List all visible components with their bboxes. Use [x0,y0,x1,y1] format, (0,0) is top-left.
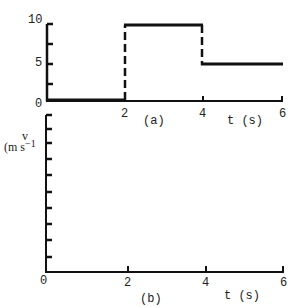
plot-a-x-label-4: 4 [199,107,206,121]
plot-b-y-title-unit-base: (m s [4,140,25,154]
plot-b: v (m s−1 0 2 4 6 (b) t (s) [4,115,287,306]
plot-b-x-title: t (s) [224,289,260,303]
plot-a-x-label-2: 2 [121,107,128,121]
plot-b-x-label-4: 4 [202,276,209,290]
plot-a-y-label-10: 10 [28,13,42,27]
plot-a-y-label-0: 0 [35,97,42,111]
plot-b-x-label-2: 2 [124,276,131,290]
plot-a: 10 5 0 2 4 6 (a) t (s) [28,13,286,128]
plot-b-x-label-6: 6 [280,276,287,290]
plot-a-x-title: t (s) [227,114,263,128]
plot-a-caption: (a) [143,114,165,128]
plot-b-x-label-0: 0 [40,274,47,288]
plot-a-y-label-5: 5 [35,56,42,70]
plot-b-y-title-unit-exp: −1 [25,138,36,149]
plot-b-caption: (b) [140,292,162,306]
plot-b-y-title-unit: (m s−1 [4,138,36,154]
plot-a-x-label-6: 6 [279,107,286,121]
figure: 10 5 0 2 4 6 (a) t (s) v (m s−1 [0,0,298,307]
